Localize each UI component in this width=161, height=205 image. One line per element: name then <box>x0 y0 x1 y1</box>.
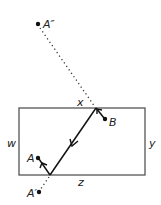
label-b: B <box>109 116 117 129</box>
label-x: x <box>76 96 84 109</box>
room-rectangle <box>19 108 145 175</box>
label-z: z <box>77 176 84 189</box>
dotted-line-a-double-prime <box>40 28 95 107</box>
label-a-double-prime: A″ <box>42 18 56 31</box>
label-w: w <box>7 137 16 150</box>
point-a <box>36 156 40 160</box>
path-top-to-bottom <box>50 108 96 175</box>
point-b <box>103 117 107 121</box>
reflection-diagram: A″ x B w y A z A′ <box>0 0 161 205</box>
label-a: A <box>26 152 35 165</box>
point-a-double-prime <box>36 22 40 26</box>
label-a-prime: A′ <box>26 187 38 200</box>
point-a-prime <box>37 190 41 194</box>
label-y: y <box>148 137 156 150</box>
dotted-line-a-prime <box>40 177 49 190</box>
